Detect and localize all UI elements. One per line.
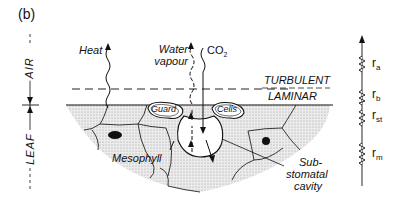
resistance-rst: rst — [372, 108, 382, 124]
leaf-diagram — [0, 0, 406, 201]
air-arrowhead — [27, 97, 33, 104]
resistor-rb — [359, 90, 365, 105]
leaf-zone-label: LEAF — [24, 131, 36, 167]
cells-label: Cells — [217, 104, 237, 114]
water-label-line1: Water — [156, 44, 188, 55]
resistance-rm: rm — [372, 146, 383, 162]
resistor-ra — [359, 56, 365, 72]
heat-label: Heat — [79, 45, 102, 56]
substomatal-label-line2: stomatal — [286, 169, 328, 180]
water-vapour-arrowhead — [188, 42, 194, 49]
panel-label: (b) — [18, 6, 35, 22]
water-label-line2: vapour — [150, 56, 188, 67]
resistor-rm — [359, 143, 365, 165]
co2-main: CO — [207, 44, 224, 56]
mesophyll-label: Mesophyll — [112, 153, 162, 164]
chloroplast-right — [262, 137, 270, 145]
substomatal-label-line3: cavity — [294, 181, 322, 192]
turbulent-label: TURBULENT — [264, 75, 330, 86]
substomatal-cavity — [178, 116, 223, 157]
resistance-rb: rb — [372, 87, 380, 103]
guard-cell-label: Guard — [151, 104, 176, 114]
resistor-rst — [359, 110, 365, 126]
leaf-arrowhead — [27, 106, 33, 113]
resistance-ra: ra — [372, 56, 380, 72]
co2-subscript: 2 — [224, 51, 228, 58]
laminar-label: LAMINAR — [268, 91, 317, 102]
air-zone-label: AIR — [23, 55, 35, 80]
chloroplast-left — [108, 131, 122, 139]
substomatal-label-line1: Sub- — [299, 157, 322, 168]
resistance-arrowhead — [359, 35, 365, 43]
heat-arrow — [106, 48, 110, 108]
co2-label: CO2 — [207, 44, 227, 58]
heat-arrowhead — [105, 43, 111, 50]
